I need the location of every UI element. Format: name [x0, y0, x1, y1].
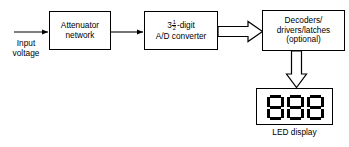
attenuator-network-block[interactable]: Attenuator network	[49, 11, 111, 50]
ad-converter-label-line1: 3 1 2 -digit	[167, 20, 195, 32]
decoders-to-display-arrow	[287, 51, 307, 88]
adc-to-decoders-arrow	[218, 22, 263, 42]
led-display[interactable]	[256, 88, 333, 125]
ad-converter-digit-suffix: -digit	[177, 21, 195, 31]
block-diagram-canvas: Attenuator network 3 1 2 -digit A/D conv…	[0, 0, 349, 147]
ad-converter-block[interactable]: 3 1 2 -digit A/D converter	[144, 11, 218, 50]
segment-c-icon	[321, 109, 324, 118]
segment-b-icon	[301, 97, 304, 106]
fraction-denominator: 2	[172, 26, 176, 32]
segment-a-icon	[290, 95, 301, 98]
segment-f-icon	[267, 97, 270, 106]
ad-converter-label-line2: A/D converter	[156, 32, 207, 42]
segment-g-icon	[290, 106, 301, 109]
led-display-caption: LED display	[256, 128, 333, 138]
segment-f-icon	[287, 97, 290, 106]
decoders-label-line3: (optional)	[286, 35, 321, 45]
segment-d-icon	[290, 117, 301, 120]
seven-segment-digit-3	[307, 95, 324, 120]
input-voltage-label: Input voltage	[4, 39, 48, 59]
segment-d-icon	[270, 117, 281, 120]
ad-converter-whole-number: 3	[167, 21, 172, 31]
segment-c-icon	[281, 109, 284, 118]
half-fraction: 1 2	[172, 20, 176, 32]
segment-b-icon	[321, 97, 324, 106]
seven-segment-digit-1	[267, 95, 284, 120]
input-voltage-label-line2: voltage	[4, 49, 48, 59]
segment-c-icon	[301, 109, 304, 118]
decoders-drivers-latches-block[interactable]: Decoders/ drivers/latches (optional)	[262, 10, 345, 51]
segment-a-icon	[270, 95, 281, 98]
seven-segment-digit-2	[287, 95, 304, 120]
segment-g-icon	[270, 106, 281, 109]
segment-d-icon	[310, 117, 321, 120]
attenuator-network-label-line2: network	[65, 31, 94, 41]
segment-g-icon	[310, 106, 321, 109]
segment-f-icon	[307, 97, 310, 106]
segment-a-icon	[310, 95, 321, 98]
segment-b-icon	[281, 97, 284, 106]
led-digit-group	[257, 89, 334, 126]
